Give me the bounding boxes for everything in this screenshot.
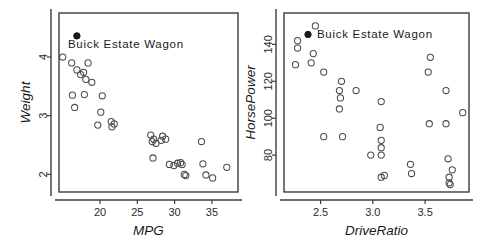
data-point [321, 69, 327, 75]
x-axis-title: MPG [133, 223, 164, 238]
y-tick-label: 120 [262, 72, 274, 90]
data-point [377, 124, 383, 130]
data-point [378, 137, 384, 143]
scatter-plot-figure: 20253035MPG234WeightBuick Estate Wagon 2… [0, 0, 489, 245]
x-tick-label: 20 [94, 206, 106, 218]
x-tick-label: 35 [206, 206, 218, 218]
y-tick-label: 80 [262, 149, 274, 161]
data-point [353, 87, 359, 93]
data-point [294, 45, 300, 51]
data-point [183, 172, 189, 178]
data-point [198, 138, 204, 144]
data-point [425, 69, 431, 75]
data-point [310, 50, 316, 56]
data-point [449, 167, 455, 173]
data-point [378, 152, 384, 158]
x-tick-label: 3.0 [365, 206, 380, 218]
data-point [69, 92, 75, 98]
legend-marker [305, 31, 311, 37]
data-point [89, 79, 95, 85]
data-point [224, 164, 230, 170]
data-point [445, 156, 451, 162]
legend-label: Buick Estate Wagon [68, 38, 184, 50]
y-axis-title: HorsePower [245, 65, 258, 140]
data-point [368, 152, 374, 158]
x-axis-title: DriveRatio [345, 223, 409, 238]
data-point [210, 175, 216, 181]
data-point [447, 182, 453, 188]
y-axis-title: Weight [18, 80, 33, 123]
y-tick-label: 2 [37, 171, 49, 177]
x-tick-label: 3.5 [417, 206, 432, 218]
y-tick-label: 140 [262, 35, 274, 53]
data-point [426, 121, 432, 127]
data-point [339, 134, 345, 140]
data-point [336, 106, 342, 112]
data-point [200, 161, 206, 167]
data-point [407, 161, 413, 167]
data-point [98, 109, 104, 115]
data-point [337, 95, 343, 101]
data-point [443, 121, 449, 127]
data-point [95, 122, 101, 128]
data-point [292, 62, 298, 68]
data-point [338, 78, 344, 84]
y-tick-label: 3 [37, 113, 49, 119]
data-point [378, 145, 384, 151]
x-tick-label: 30 [168, 206, 180, 218]
data-point [150, 155, 156, 161]
x-tick-label: 25 [131, 206, 143, 218]
data-point [308, 60, 314, 66]
y-tick-label: 100 [262, 109, 274, 127]
data-point [321, 134, 327, 140]
data-point [408, 170, 414, 176]
data-point [460, 110, 466, 116]
data-point [336, 87, 342, 93]
data-point [81, 91, 87, 97]
data-point [85, 60, 91, 66]
data-point [294, 38, 300, 44]
y-tick-label: 4 [37, 54, 49, 60]
data-point [83, 76, 89, 82]
data-point [99, 93, 105, 99]
data-point [443, 87, 449, 93]
data-point [72, 104, 78, 110]
driveratio-horsepower-plot: 2.53.03.5DriveRatio80100120140HorsePower… [245, 0, 489, 245]
legend-label: Buick Estate Wagon [317, 28, 433, 40]
data-point [60, 54, 66, 60]
data-point [69, 60, 75, 66]
data-point [427, 54, 433, 60]
data-point [378, 98, 384, 104]
data-point [203, 172, 209, 178]
panel-mpg-weight: 20253035MPG234WeightBuick Estate Wagon [0, 0, 245, 245]
mpg-weight-plot: 20253035MPG234WeightBuick Estate Wagon [0, 0, 245, 245]
x-tick-label: 2.5 [313, 206, 328, 218]
panel-driveratio-horsepower: 2.53.03.5DriveRatio80100120140HorsePower… [245, 0, 489, 245]
